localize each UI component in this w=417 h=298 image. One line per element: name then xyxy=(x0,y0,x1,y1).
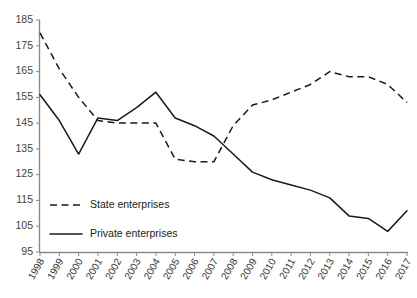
x-tick-label: 2014 xyxy=(335,256,356,281)
x-tick-label: 2010 xyxy=(257,256,278,281)
y-tick-label: 175 xyxy=(15,39,33,51)
y-tick-label: 115 xyxy=(16,193,33,205)
series-line-state-enterprises xyxy=(40,33,407,162)
chart-plot-area: 95105115125135145155165175185 1998199920… xyxy=(0,0,417,298)
x-tick-label: 2012 xyxy=(296,256,317,281)
line-chart: 95105115125135145155165175185 1998199920… xyxy=(0,0,417,298)
x-tick-label: 2003 xyxy=(122,256,143,281)
x-tick-label: 2013 xyxy=(315,256,336,281)
y-tick-label: 145 xyxy=(15,116,33,128)
x-axis-group: 1998199920002001200220032004200520062007… xyxy=(26,252,414,281)
x-tick-label: 1998 xyxy=(26,256,47,281)
y-tick-label: 185 xyxy=(15,13,33,25)
x-tick-label: 2017 xyxy=(393,256,414,281)
x-axis-tick-labels: 1998199920002001200220032004200520062007… xyxy=(26,256,414,281)
x-tick-label: 2011 xyxy=(277,256,297,281)
y-tick-label: 125 xyxy=(15,167,33,179)
legend-label-state-enterprises: State enterprises xyxy=(90,198,169,210)
x-tick-label: 1999 xyxy=(45,256,66,281)
y-tick-label: 165 xyxy=(15,64,33,76)
x-tick-label: 2015 xyxy=(354,256,375,281)
x-tick-label: 2016 xyxy=(373,256,394,281)
x-tick-label: 2006 xyxy=(180,256,201,281)
chart-legend: State enterprises Private enterprises xyxy=(50,198,178,239)
y-tick-label: 135 xyxy=(15,142,33,154)
y-tick-label: 105 xyxy=(15,219,33,231)
x-tick-label: 2001 xyxy=(84,256,105,281)
y-tick-label: 155 xyxy=(15,90,33,102)
x-tick-label: 2007 xyxy=(199,256,220,281)
x-tick-label: 2000 xyxy=(64,256,85,281)
x-tick-label: 2005 xyxy=(161,256,182,281)
x-tick-label: 2002 xyxy=(103,256,124,281)
y-axis-tick-labels: 95105115125135145155165175185 xyxy=(15,13,40,257)
y-axis-group: 95105115125135145155165175185 xyxy=(15,13,40,257)
x-tick-label: 2008 xyxy=(219,256,240,281)
legend-label-private-enterprises: Private enterprises xyxy=(90,227,178,239)
x-tick-label: 2004 xyxy=(141,256,162,281)
x-tick-label: 2009 xyxy=(238,256,259,281)
y-tick-label: 95 xyxy=(21,245,33,257)
series-line-private-enterprises xyxy=(40,92,407,231)
